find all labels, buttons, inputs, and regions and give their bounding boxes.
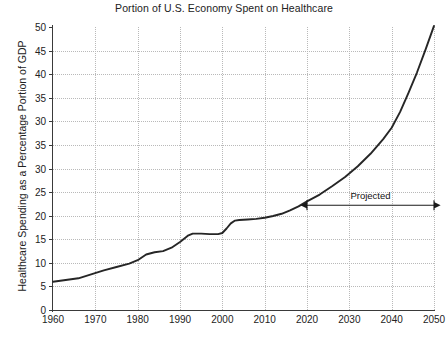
x-tick-label: 1980 — [118, 314, 158, 325]
projected-arrow — [53, 27, 434, 310]
y-tick-label: 30 — [16, 163, 46, 174]
healthcare-gdp-chart: Portion of U.S. Economy Spent on Healthc… — [0, 0, 448, 344]
x-tick-label: 2050 — [414, 314, 448, 325]
y-tick-label: 35 — [16, 92, 46, 103]
y-tick-label: 5 — [16, 281, 46, 292]
y-tick-label: 35 — [16, 139, 46, 150]
x-tick-label: 1990 — [160, 314, 200, 325]
x-tick-label: 1970 — [75, 314, 115, 325]
projected-annotation-label: Projected — [350, 190, 390, 201]
x-tick-label: 2030 — [329, 314, 369, 325]
y-tick-label: 30 — [16, 116, 46, 127]
x-tick-label: 2040 — [372, 314, 412, 325]
x-tick-label: 2020 — [287, 314, 327, 325]
plot-area: Projected — [53, 27, 434, 310]
x-tick-label: 1960 — [33, 314, 73, 325]
x-tick-label: 2000 — [202, 314, 242, 325]
y-tick-label: 40 — [16, 69, 46, 80]
y-tick-label: 10 — [16, 257, 46, 268]
x-axis-line — [52, 310, 435, 311]
y-tick-label: 15 — [16, 234, 46, 245]
x-tick-label: 2010 — [245, 314, 285, 325]
y-tick-label: 45 — [16, 45, 46, 56]
gridline-vertical — [434, 27, 435, 310]
y-tick-label: 20 — [16, 210, 46, 221]
chart-title: Portion of U.S. Economy Spent on Healthc… — [0, 2, 448, 14]
y-tick-label: 25 — [16, 187, 46, 198]
y-tick-label: 50 — [16, 22, 46, 33]
